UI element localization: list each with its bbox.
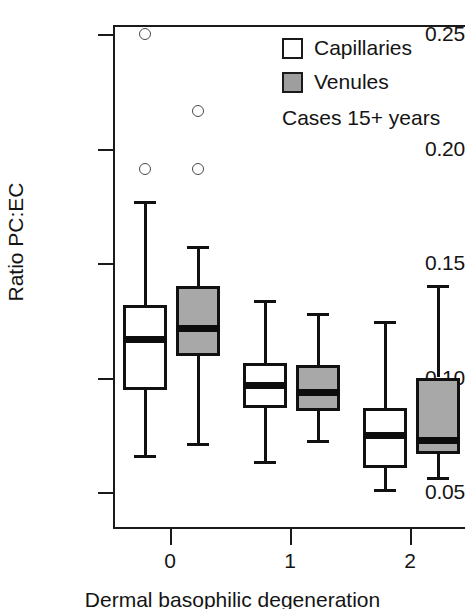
y-tick-0.15 [98, 263, 114, 265]
legend-label-capillaries: Capillaries [314, 36, 412, 60]
whisker-lower [317, 411, 320, 441]
median-line [123, 336, 167, 343]
whisker-upper [437, 285, 440, 378]
median-line [176, 325, 220, 332]
y-axis-title: Ratio PC:EC [4, 142, 28, 342]
whisker-cap-upper [374, 321, 396, 324]
whisker-cap-lower [374, 489, 396, 492]
whisker-cap-upper [187, 246, 209, 249]
x-tick-label-0: 0 [140, 549, 200, 573]
whisker-upper [317, 313, 320, 365]
x-axis-title: Dermal basophilic degeneration [0, 588, 465, 609]
legend-item-venules: Venules [282, 65, 440, 99]
outlier-point [139, 28, 151, 40]
box-iqr [296, 365, 340, 411]
whisker-lower [144, 390, 147, 455]
outlier-point [139, 163, 151, 175]
median-line [243, 382, 287, 389]
whisker-upper [197, 246, 200, 286]
whisker-cap-lower [254, 461, 276, 464]
whisker-lower [197, 356, 200, 443]
box-iqr [176, 286, 220, 356]
outlier-point [192, 163, 204, 175]
box-iqr [123, 305, 167, 390]
whisker-lower [437, 454, 440, 477]
whisker-cap-lower [307, 440, 329, 443]
whisker-cap-upper [134, 201, 156, 204]
x-tick-label-2: 2 [380, 549, 440, 573]
legend-swatch-venules-icon [282, 72, 303, 93]
median-line [416, 437, 460, 444]
legend: Capillaries Venules Cases 15+ years [282, 31, 440, 130]
boxplot-figure: 0.25 0.20 0.15 0.10 0.05 Ratio PC:EC 0 1… [0, 0, 465, 609]
whisker-cap-upper [427, 285, 449, 288]
y-tick-0.20 [98, 149, 114, 151]
whisker-upper [264, 300, 267, 363]
x-tick-2 [410, 529, 412, 545]
legend-label-venules: Venules [314, 70, 389, 94]
legend-item-capillaries: Capillaries [282, 31, 440, 65]
x-tick-0 [170, 529, 172, 545]
legend-note: Cases 15+ years [282, 106, 440, 130]
y-tick-0.05 [98, 492, 114, 494]
x-tick-label-1: 1 [260, 549, 320, 573]
whisker-upper [144, 201, 147, 305]
whisker-upper [384, 321, 387, 408]
whisker-cap-upper [307, 313, 329, 316]
whisker-cap-lower [134, 455, 156, 458]
whisker-cap-lower [187, 443, 209, 446]
outlier-point [192, 105, 204, 117]
y-tick-0.25 [98, 34, 114, 36]
whisker-cap-lower [427, 477, 449, 480]
x-tick-1 [290, 529, 292, 545]
whisker-lower [264, 408, 267, 461]
y-tick-0.10 [98, 378, 114, 380]
legend-swatch-capillaries-icon [282, 38, 303, 59]
median-line [363, 432, 407, 439]
whisker-cap-upper [254, 300, 276, 303]
whisker-lower [384, 468, 387, 489]
median-line [296, 389, 340, 396]
